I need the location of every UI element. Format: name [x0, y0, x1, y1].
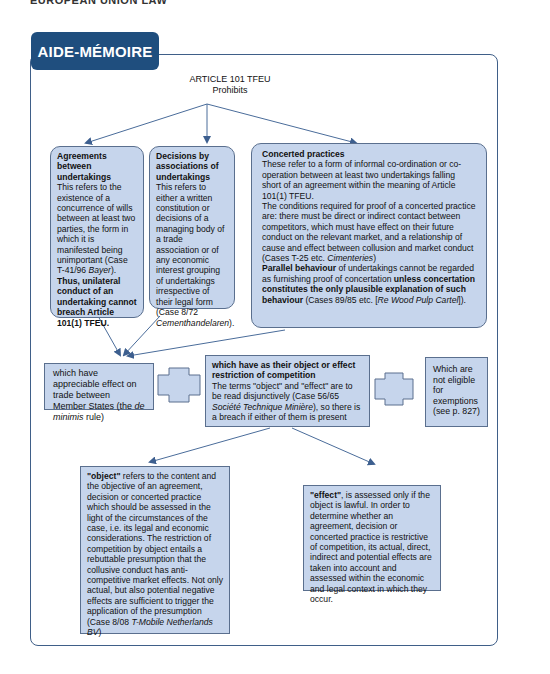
appreciable-effect-box: which have appreciable effect on trade b… — [44, 363, 154, 410]
concerted-practices-box: Concerted practices These refer to a for… — [251, 143, 487, 328]
effect-box: "effect", is assessed only if the object… — [303, 485, 441, 591]
case-cementhandelaren: Cementhandelaren — [156, 318, 229, 328]
concerted-heading: Concerted practices — [262, 149, 345, 159]
exemptions-box: Which are not eligible for exemptions (s… — [425, 357, 488, 427]
agreements-box: Agreements between undertakings This ref… — [50, 146, 144, 318]
agreements-heading: Agreements between undertakings — [57, 151, 111, 182]
plus-connector-icon — [157, 367, 201, 403]
case-bayer: Bayer — [89, 265, 111, 275]
restriction-box: which have as their object or effect res… — [205, 355, 370, 427]
plus-connector-icon — [374, 372, 414, 406]
object-box: "object" refers to the content and the o… — [80, 466, 230, 634]
decisions-heading: Decisions by associations of undertaking… — [156, 151, 219, 182]
decisions-box: Decisions by associations of undertaking… — [149, 146, 235, 309]
